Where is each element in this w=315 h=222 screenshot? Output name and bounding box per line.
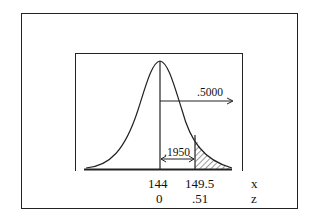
shaded-tail-region <box>195 137 232 169</box>
z-value-mean: 0 <box>156 192 163 205</box>
bell-curve <box>86 61 232 168</box>
middle-area-label: .1950 <box>164 146 190 159</box>
x-axis-label: x <box>251 177 258 190</box>
x-value-mean: 144 <box>148 177 168 190</box>
z-axis-label: z <box>251 192 257 205</box>
x-value-cutoff: 149.5 <box>185 177 214 190</box>
upper-half-area-label: .5000 <box>197 86 223 99</box>
z-value-cutoff: .51 <box>192 192 208 205</box>
